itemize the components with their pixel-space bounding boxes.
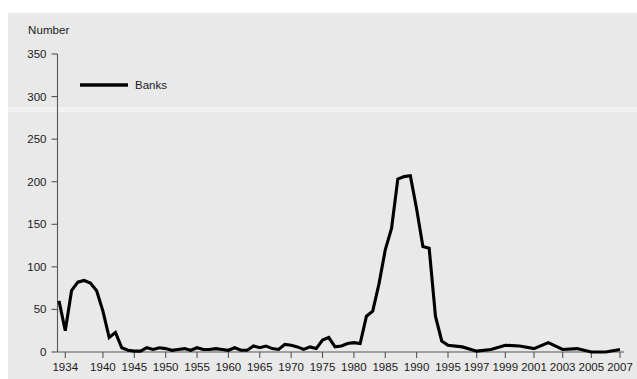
y-tick-label: 0 [40,346,46,358]
x-tick-label: 1980 [341,361,367,373]
x-tick-label: 2003 [550,361,576,373]
legend-label-banks: Banks [135,79,167,91]
x-tick-label: 2005 [579,361,605,373]
x-tick-label: 2001 [521,361,547,373]
x-tick-label: 1945 [121,361,147,373]
y-tick-label: 150 [27,218,46,230]
x-tick-label: 1950 [153,361,179,373]
y-tick-label: 300 [27,91,46,103]
chart-figure: Number 050100150200250300350 19341940194… [0,0,637,379]
x-tick-label: 1965 [247,361,273,373]
x-tick-label: 1999 [493,361,519,373]
x-tick-label: 1990 [404,361,430,373]
x-tick-label: 1995 [435,361,461,373]
y-tick-label: 50 [34,303,47,315]
x-axis-ticks: 1934194019451950195519601965197019751980… [52,352,632,373]
x-tick-label: 1970 [278,361,304,373]
x-tick-label: 2007 [607,361,633,373]
chart-plot-svg: 050100150200250300350 193419401945195019… [0,0,637,379]
y-tick-label: 350 [27,48,46,60]
x-tick-label: 1997 [464,361,490,373]
series-line-banks [59,176,620,352]
x-tick-label: 1975 [310,361,336,373]
x-tick-label: 1985 [372,361,398,373]
x-tick-label: 1960 [216,361,242,373]
x-tick-label: 1934 [52,361,78,373]
x-tick-label: 1955 [184,361,210,373]
x-tick-label: 1940 [90,361,116,373]
chart-legend: Banks [80,79,167,91]
y-axis-ticks: 050100150200250300350 [27,48,57,358]
y-tick-label: 200 [27,176,46,188]
y-tick-label: 250 [27,133,46,145]
y-tick-label: 100 [27,261,46,273]
